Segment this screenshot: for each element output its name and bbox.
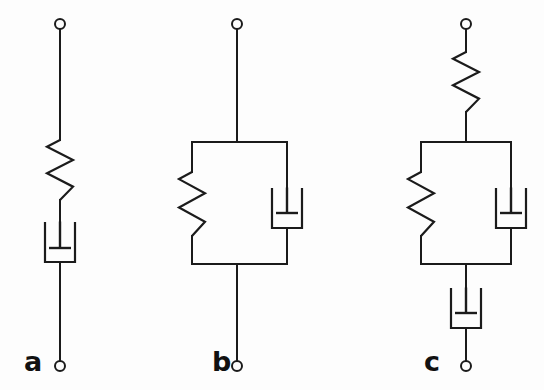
panel-c <box>408 19 526 371</box>
panel-label-b: b <box>212 346 231 377</box>
dashpot-c-series <box>451 288 481 329</box>
panel-label-c: c <box>424 346 440 377</box>
panels-group <box>45 19 526 371</box>
spring-b <box>179 172 205 236</box>
spring-c-series <box>453 52 479 112</box>
terminal-top-c[interactable] <box>461 19 471 29</box>
terminal-top-b[interactable] <box>232 19 242 29</box>
terminal-bottom-b[interactable] <box>232 361 242 371</box>
panel-labels-group: abc <box>24 346 440 377</box>
panel-b <box>179 19 302 371</box>
dashpot-a <box>45 222 75 263</box>
dashpot-b <box>272 188 302 229</box>
spring-a <box>47 140 73 200</box>
viscoelastic-models-figure: abc <box>0 0 544 390</box>
terminal-bottom-a[interactable] <box>55 361 65 371</box>
terminal-bottom-c[interactable] <box>461 361 471 371</box>
dashpot-c-parallel <box>496 188 526 229</box>
panel-label-a: a <box>24 346 42 377</box>
panel-a <box>45 19 75 371</box>
figure-canvas: abc <box>0 0 544 390</box>
terminal-top-a[interactable] <box>55 19 65 29</box>
spring-c-parallel <box>408 172 434 236</box>
